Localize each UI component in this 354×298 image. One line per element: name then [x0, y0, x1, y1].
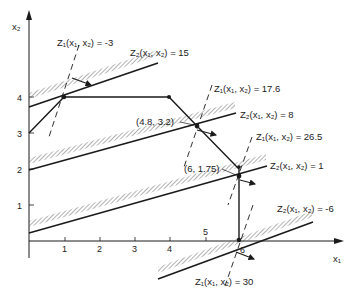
z2-neg6-hatch [158, 211, 312, 273]
z1-neg3-label: Z₁(x₁, x₂) = -3 [57, 37, 113, 48]
z2-1-hatch [29, 154, 266, 227]
x-tick-3: 3 [132, 244, 137, 254]
x1-axis-label: x₁ [333, 253, 341, 264]
bicriteria-lp-diagram: x₂ x₁ 1 2 3 4 5 6 1 2 3 4 [0, 0, 354, 298]
vertex-4.8-3.2 [195, 124, 200, 129]
z1-arrow-3-icon [240, 180, 255, 184]
x2-axis-label: x₂ [12, 21, 21, 32]
z1-17.6-label: Z₁(x₁, x₂) = 17.6 [214, 83, 280, 94]
vertex-6-0 [237, 238, 241, 242]
x-ticks [65, 237, 206, 241]
z1-arrow-2-icon [197, 130, 216, 135]
x1-axis-arrow-icon [334, 238, 344, 244]
vertex-6-1.75 [237, 174, 242, 179]
z2-neg6-label: Z₂(x₁, x₂) = -6 [277, 203, 334, 214]
z1-26.5-label: Z₁(x₁, x₂) = 26.5 [256, 131, 322, 142]
x2-axis-arrow-icon [26, 10, 32, 20]
y-tick-1: 1 [17, 201, 22, 211]
y-ticks [29, 97, 34, 205]
z2-8-label: Z₂(x₁, x₂) = 8 [240, 109, 294, 120]
x-tick-4: 4 [167, 244, 172, 254]
z2-8-line [29, 113, 236, 170]
z1-neg3-line [48, 45, 79, 140]
vertex-6-2 [237, 165, 241, 169]
x-tick-1: 1 [62, 244, 67, 254]
z2-neg6-line [158, 222, 313, 279]
vertex-4-4 [167, 95, 171, 99]
x-tick-5: 5 [203, 227, 208, 237]
z2-1-line [29, 166, 267, 233]
z2-15-label: Z₂(x₁, x₂) = 15 [130, 47, 189, 58]
z1-30-label: Z₁(x₁, x₂) = 30 [195, 276, 253, 287]
point-label-6-1.75: (6, 1.75) [184, 163, 219, 174]
z2-15-line [29, 63, 158, 107]
leader-4.8-3.2 [180, 122, 194, 125]
y-tick-4: 4 [17, 93, 22, 103]
x-tick-2: 2 [97, 244, 102, 254]
vertex-1-4 [62, 95, 66, 99]
y-tick-3: 3 [17, 129, 22, 139]
point-label-4.8-3.2: (4.8, 3.2) [136, 116, 174, 127]
y-tick-2: 2 [17, 165, 22, 175]
z2-1-label: Z₂(x₁, x₂) = 1 [270, 160, 324, 171]
